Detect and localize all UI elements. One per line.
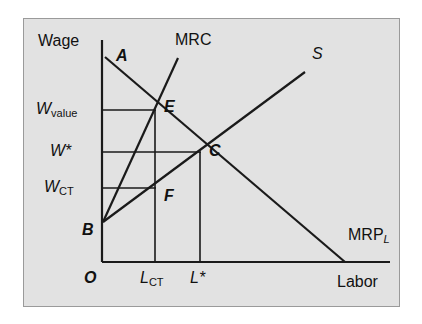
supply-curve-label: S bbox=[312, 46, 323, 62]
point-label-e: E bbox=[164, 99, 175, 115]
point-label-b: B bbox=[82, 222, 94, 238]
wage-axis-label: Wage bbox=[38, 33, 79, 49]
labor-tick-l-star: L* bbox=[190, 270, 205, 286]
wage-tick-w-value: Wvalue bbox=[36, 101, 77, 117]
wage-tick-w-ct: WCT bbox=[44, 179, 74, 195]
mrp-l-curve-label: MRPL bbox=[348, 227, 390, 243]
mrp-l-curve bbox=[105, 57, 345, 262]
origin-label: O bbox=[84, 270, 96, 286]
wage-tick-w-star: W* bbox=[50, 143, 71, 159]
labor-tick-l-ct: LCT bbox=[140, 270, 164, 286]
point-label-a: A bbox=[116, 48, 128, 64]
mrc-curve-label: MRC bbox=[175, 32, 211, 48]
labor-axis-label: Labor bbox=[337, 274, 378, 290]
supply-curve bbox=[103, 72, 305, 222]
figure-screen: Wage Labor O Wvalue W* WCT LCT L* MRC S … bbox=[0, 0, 422, 324]
point-label-f: F bbox=[164, 188, 174, 204]
point-label-c: C bbox=[209, 143, 221, 159]
